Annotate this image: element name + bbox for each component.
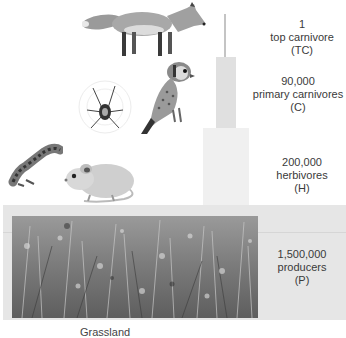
fox-illustration [82,2,212,60]
level-label-producers: 1,500,000 producers (P) [258,248,346,287]
grassland-photo [12,216,258,318]
spider-illustration [75,80,135,135]
level-name: top carnivore [258,31,346,44]
mouse-illustration [62,155,142,207]
primary-carnivore-bar [216,57,236,128]
level-name: primary carnivores [250,88,346,101]
count: 1,500,000 [258,248,346,261]
count: 90,000 [250,75,346,88]
herbivore-bar [203,128,249,205]
count: 1 [258,18,346,31]
kestrel-illustration [135,60,200,135]
top-carnivore-bar [224,14,226,57]
level-label-primary-carnivores: 90,000 primary carnivores (C) [250,75,346,114]
level-name: herbivores [258,169,346,182]
count: 200,000 [258,156,346,169]
ecosystem-caption: Grassland [80,326,130,338]
level-label-herbivores: 200,000 herbivores (H) [258,156,346,195]
level-abbr: (TC) [258,44,346,57]
level-abbr: (P) [258,274,346,287]
level-abbr: (H) [258,182,346,195]
level-abbr: (C) [250,101,346,114]
level-label-top-carnivore: 1 top carnivore (TC) [258,18,346,57]
caterpillar-illustration [8,140,63,190]
level-name: producers [258,261,346,274]
